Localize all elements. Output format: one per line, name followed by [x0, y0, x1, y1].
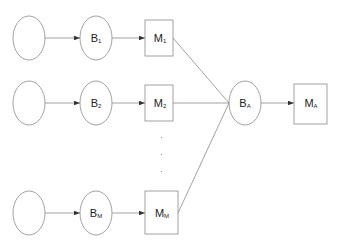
label-bm: BM — [90, 207, 102, 219]
label-b2: B2 — [91, 97, 102, 109]
source-node-m — [13, 191, 45, 235]
ellipsis-dot — [161, 154, 162, 155]
label-mm: MM — [155, 207, 169, 219]
ellipsis-dot — [161, 137, 162, 138]
label-m2: M2 — [154, 97, 167, 109]
label-b1: B1 — [91, 32, 102, 44]
label-ba: BA — [239, 97, 250, 109]
source-node-1 — [13, 16, 45, 60]
diagram: B1 M1 B2 M2 BM MM BA MA — [0, 0, 337, 246]
ellipsis-dot — [161, 171, 162, 172]
source-node-2 — [13, 81, 45, 125]
label-ma: MA — [304, 97, 317, 109]
label-m1: M1 — [154, 32, 167, 44]
